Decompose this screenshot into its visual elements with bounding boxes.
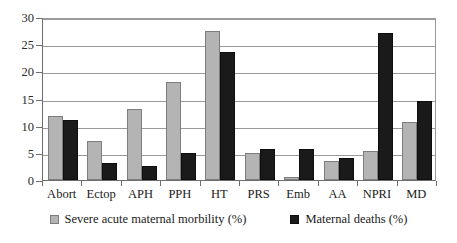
bar-aph-series-0 [127, 109, 142, 180]
x-tick-2 [121, 181, 122, 186]
x-tick-3 [160, 181, 161, 186]
bar-pph-series-0 [166, 82, 181, 180]
x-tick-label-aa: AA [318, 188, 357, 201]
y-tick-label-0: 0 [4, 175, 34, 188]
legend-label-0: Severe acute maternal morbility (%) [65, 212, 247, 227]
bar-aa-series-0 [324, 161, 339, 180]
bar-prs-series-0 [245, 153, 260, 180]
legend-swatch-icon-1 [290, 215, 299, 224]
legend-entry-1: Maternal deaths (%) [290, 212, 407, 227]
x-tick-label-ht: HT [200, 188, 239, 201]
legend-swatch-icon-0 [50, 215, 59, 224]
x-tick-label-npri: NPRI [357, 188, 396, 201]
x-tick-1 [81, 181, 82, 186]
legend-label-1: Maternal deaths (%) [305, 212, 407, 227]
x-tick-label-prs: PRS [239, 188, 278, 201]
x-tick-label-abort: Abort [42, 188, 81, 201]
x-tick-label-emb: Emb [278, 188, 317, 201]
x-tick-9 [397, 181, 398, 186]
chart-legend: Severe acute maternal morbility (%)Mater… [0, 212, 457, 227]
bar-ht-series-1 [220, 52, 235, 180]
bar-abort-series-1 [63, 120, 78, 180]
x-tick-4 [200, 181, 201, 186]
bar-abort-series-0 [48, 116, 63, 180]
bar-aph-series-1 [142, 166, 157, 180]
y-tick-label-25: 25 [4, 39, 34, 52]
legend-entry-0: Severe acute maternal morbility (%) [50, 212, 247, 227]
bar-prs-series-1 [260, 149, 275, 181]
x-tick-label-md: MD [397, 188, 436, 201]
x-tick-label-pph: PPH [160, 188, 199, 201]
x-axis-labels: AbortEctopAPHPPHHTPRSEmbAANPRIMD [0, 188, 457, 206]
y-tick-label-20: 20 [4, 66, 34, 79]
bar-aa-series-1 [339, 158, 354, 180]
bar-md-series-1 [417, 101, 432, 180]
x-tick-5 [239, 181, 240, 186]
bars-layer [43, 19, 435, 180]
x-tick-label-ectop: Ectop [81, 188, 120, 201]
bar-emb-series-0 [284, 177, 299, 180]
x-tick-end [436, 181, 437, 186]
bar-pph-series-1 [181, 153, 196, 180]
bar-npri-series-1 [378, 33, 393, 180]
bar-ectop-series-0 [87, 141, 102, 180]
x-tick-8 [357, 181, 358, 186]
x-tick-0 [42, 181, 43, 186]
bar-npri-series-0 [363, 151, 378, 180]
bar-chart: 051015202530 AbortEctopAPHPPHHTPRSEmbAAN… [0, 0, 457, 243]
y-tick-label-15: 15 [4, 94, 34, 107]
x-tick-7 [318, 181, 319, 186]
y-tick-label-10: 10 [4, 121, 34, 134]
bar-md-series-0 [402, 122, 417, 180]
x-tick-label-aph: APH [121, 188, 160, 201]
y-tick-label-30: 30 [4, 12, 34, 25]
y-tick-label-5: 5 [4, 148, 34, 161]
plot-area [42, 18, 436, 181]
bar-emb-series-1 [299, 149, 314, 181]
bar-ht-series-0 [205, 31, 220, 180]
bar-ectop-series-1 [102, 163, 117, 180]
x-tick-6 [278, 181, 279, 186]
